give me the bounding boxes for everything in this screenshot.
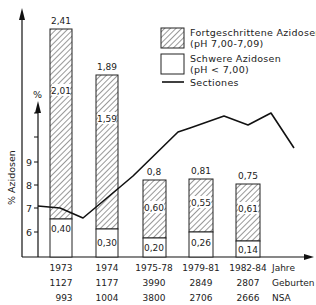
- nsa-value: 1004: [96, 293, 119, 303]
- legend-plain-sub: (pH < 7,00): [190, 64, 249, 75]
- row-label-jahre: Jahre: [271, 263, 295, 273]
- bar-total-label: 0,8: [147, 167, 162, 177]
- nsa-value: 2666: [237, 293, 260, 303]
- row-label-nsa: NSA: [272, 293, 292, 303]
- arrow-up-icon: [19, 8, 25, 20]
- tick-label-7: 7: [26, 203, 32, 214]
- bar-total-label: 2,41: [51, 16, 71, 26]
- tick-label-8: 8: [26, 180, 32, 191]
- legend-plain-label: Schwere Azidosen: [190, 53, 281, 64]
- legend-line-label: Sectiones: [190, 77, 239, 88]
- year-label: 1982-84: [229, 263, 267, 273]
- azidosen-chart: % Azidosen % 9 8 7 6 2,41 2,01 0,40 1,89…: [0, 0, 316, 305]
- arrow-right-icon: [304, 254, 314, 260]
- bar-1974: [96, 75, 118, 257]
- tick-label-6: 6: [26, 227, 32, 238]
- outer-y-axis: [19, 8, 25, 257]
- legend-hatched-swatch: [161, 28, 184, 48]
- year-label: 1975-78: [135, 263, 173, 273]
- row-label-geburten: Geburten: [272, 278, 314, 288]
- arrow-up-icon: [35, 101, 41, 113]
- geburten-value: 3990: [143, 278, 166, 288]
- tick-label-9: 9: [26, 157, 32, 168]
- bar-hatched-label: 2,01: [51, 86, 71, 96]
- nsa-value: 3800: [143, 293, 166, 303]
- geburten-value: 1177: [96, 278, 119, 288]
- geburten-value: 2807: [237, 278, 260, 288]
- bar-plain-label: 0,20: [144, 243, 164, 253]
- bar-plain-label: 0,40: [51, 224, 71, 234]
- x-labels: 1973 1974 1975-78 1979-81 1982-84 Jahre …: [50, 263, 315, 303]
- inner-pct-axis: [34, 101, 41, 257]
- y-axis-label: % Azidosen: [6, 150, 17, 205]
- bar-total-label: 1,89: [97, 62, 117, 72]
- bar-1973: [50, 29, 72, 257]
- pct-axis-label: %: [33, 89, 42, 100]
- year-label: 1979-81: [182, 263, 220, 273]
- geburten-value: 2849: [190, 278, 213, 288]
- year-label: 1974: [96, 263, 119, 273]
- year-label: 1973: [50, 263, 73, 273]
- nsa-value: 993: [55, 293, 72, 303]
- bar-hatched-label: 0,61: [238, 204, 258, 214]
- geburten-value: 1127: [50, 278, 73, 288]
- nsa-value: 2706: [190, 293, 213, 303]
- bar-hatched-label: 0,60: [144, 203, 164, 213]
- bar-total-label: 0,75: [238, 171, 258, 181]
- bar-total-label: 0,81: [191, 166, 211, 176]
- bar-hatched-label: 1,59: [97, 114, 117, 124]
- legend-plain-swatch: [161, 54, 184, 74]
- bar-plain-label: 0,30: [97, 238, 117, 248]
- legend: Fortgeschrittene Azidosen (pH 7,00-7,09)…: [161, 27, 316, 88]
- legend-hatched-label: Fortgeschrittene Azidosen: [190, 27, 316, 38]
- bar-hatched-label: 0,55: [191, 198, 211, 208]
- bar-plain-label: 0,26: [191, 238, 211, 248]
- legend-hatched-sub: (pH 7,00-7,09): [190, 38, 264, 49]
- bar-plain-label: 0,14: [238, 245, 258, 255]
